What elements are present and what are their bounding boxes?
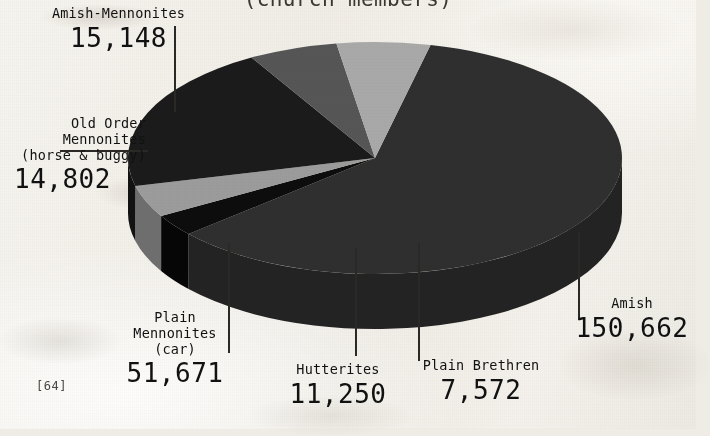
slice-label-amish: Amish 150,662 (572, 296, 692, 343)
slice-label-value: 15,148 (16, 23, 221, 53)
slice-label-name-line2: Mennonites (95, 326, 255, 342)
slice-label-plain-mennonites: Plain Mennonites (car) 51,671 (95, 310, 255, 389)
slice-label-value: 150,662 (572, 313, 692, 343)
slice-label-value: 11,250 (272, 379, 404, 409)
slice-label-name: Amish (572, 296, 692, 312)
slice-label-name-line2: Mennonites (0, 132, 146, 148)
slice-label-name: Amish-Mennonites (16, 6, 221, 22)
slice-label-name: Plain Brethren (406, 358, 556, 374)
slice-label-name-line3: (horse & buggy) (0, 148, 146, 164)
slice-label-value: 7,572 (406, 375, 556, 405)
slice-label-name-line1: Plain (95, 310, 255, 326)
slice-label-amish-mennonites: Amish-Mennonites 15,148 (16, 6, 221, 53)
slice-label-name: Hutterites (272, 362, 404, 378)
slice-label-plain-brethren: Plain Brethren 7,572 (406, 358, 556, 405)
leader-line-hutterites (355, 248, 357, 356)
slice-label-name-line3: (car) (95, 342, 255, 358)
page-number: [64] (36, 379, 67, 393)
slice-label-old-order-mennonites: Old Order Mennonites (horse & buggy) 14,… (0, 116, 146, 195)
slice-label-hutterites: Hutterites 11,250 (272, 362, 404, 409)
slice-label-name-line1: Old Order (0, 116, 146, 132)
slice-label-value: 14,802 (0, 164, 146, 194)
pie-top-surface (128, 42, 622, 274)
slice-label-value: 51,671 (95, 358, 255, 388)
leader-line-plain-brethren (418, 243, 420, 361)
